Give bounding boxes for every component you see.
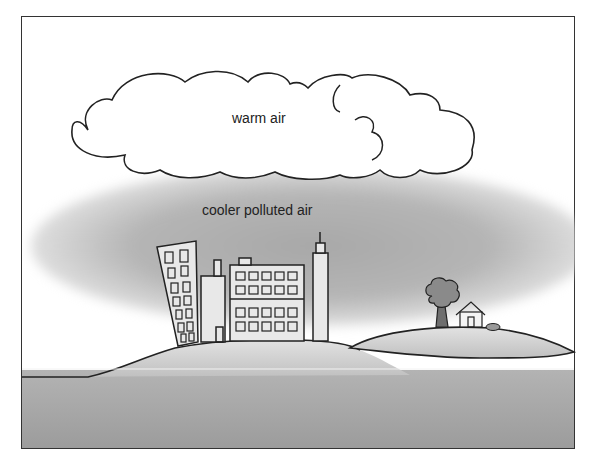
- cooler-polluted-air-label: cooler polluted air: [202, 202, 313, 218]
- tree: [426, 278, 459, 327]
- hill-right: [350, 327, 574, 358]
- building-wide: [230, 265, 304, 341]
- ground: [22, 370, 574, 448]
- city-buildings: [157, 232, 328, 346]
- building-tower: [313, 253, 328, 341]
- house: [456, 302, 485, 327]
- building-small: [201, 276, 225, 342]
- warm-air-label: warm air: [232, 110, 286, 126]
- bush: [486, 324, 500, 331]
- scene-illustration: [0, 0, 590, 460]
